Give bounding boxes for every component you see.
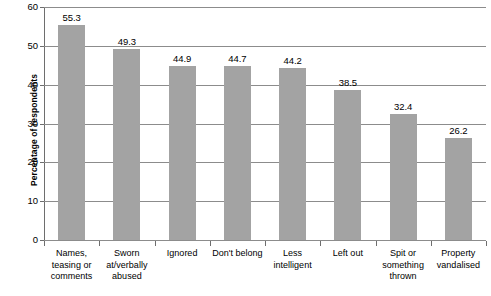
category-label: Left out [318, 248, 377, 260]
bar-value-label: 44.2 [268, 55, 318, 66]
category-label: Don't belong [208, 248, 267, 260]
category-label-line: Don't belong [208, 248, 267, 260]
x-tick-mark [155, 241, 156, 246]
category-label-line: something [374, 260, 433, 272]
category-label-line: Property [429, 248, 488, 260]
bar [445, 138, 472, 240]
x-tick-mark [320, 241, 321, 246]
x-tick-mark [431, 241, 432, 246]
bar-chart: Percentage of respondents 0102030405060 … [0, 0, 491, 296]
bar [334, 90, 361, 240]
bar-value-label: 32.4 [378, 101, 428, 112]
category-label-line: Names, [42, 248, 101, 260]
y-tick-label: 50 [6, 41, 38, 51]
x-tick-mark [210, 241, 211, 246]
x-tick-mark [44, 241, 45, 246]
y-tick-label: 10 [6, 196, 38, 206]
gridline [44, 201, 486, 202]
x-tick-mark [99, 241, 100, 246]
bar-value-label: 26.2 [433, 125, 483, 136]
gridline [44, 162, 486, 163]
bar-value-label: 38.5 [323, 77, 373, 88]
bar [390, 114, 417, 240]
bar-value-label: 55.3 [47, 12, 97, 23]
bar-value-label: 44.7 [212, 53, 262, 64]
category-label-line: Less [263, 248, 322, 260]
y-tick-label: 20 [6, 157, 38, 167]
bar [224, 66, 251, 240]
bar-value-label: 49.3 [102, 36, 152, 47]
bar [58, 25, 85, 240]
category-label: Swornat/verballyabused [97, 248, 156, 283]
category-label-line: Ignored [153, 248, 212, 260]
gridline [44, 7, 486, 8]
y-tick-label: 60 [6, 2, 38, 12]
y-axis-title: Percentage of respondents [29, 40, 39, 220]
bar [169, 66, 196, 240]
category-label-line: thrown [374, 271, 433, 283]
category-label-line: vandalised [429, 260, 488, 272]
category-label: Spit orsomethingthrown [374, 248, 433, 283]
gridline [44, 124, 486, 125]
x-tick-mark [265, 241, 266, 246]
category-label-line: at/verbally [97, 260, 156, 272]
category-label-line: comments [42, 271, 101, 283]
category-label: Ignored [153, 248, 212, 260]
category-label: Names,teasing orcomments [42, 248, 101, 283]
category-label: Propertyvandalised [429, 248, 488, 271]
category-label-line: abused [97, 271, 156, 283]
category-label-line: Spit or [374, 248, 433, 260]
y-tick-label: 40 [6, 80, 38, 90]
x-tick-mark [486, 241, 487, 246]
gridline [44, 85, 486, 86]
category-label-line: Sworn [97, 248, 156, 260]
bar-value-label: 44.9 [157, 53, 207, 64]
category-label-line: teasing or [42, 260, 101, 272]
y-tick-label: 30 [6, 119, 38, 129]
x-tick-mark [376, 241, 377, 246]
bar [279, 68, 306, 240]
bar [113, 49, 140, 240]
y-tick-label: 0 [6, 235, 38, 245]
category-label-line: intelligent [263, 260, 322, 272]
category-label: Lessintelligent [263, 248, 322, 271]
category-label-line: Left out [318, 248, 377, 260]
